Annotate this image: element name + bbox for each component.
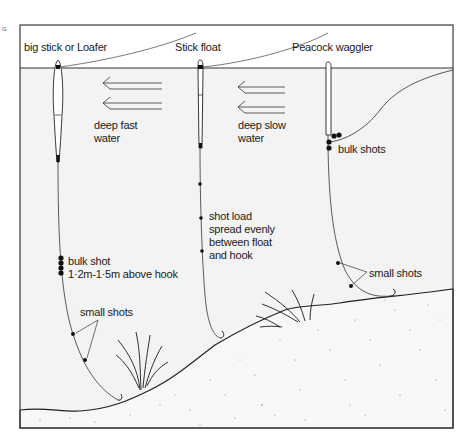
side-mark: G [2,26,7,32]
label-bulk-shots: bulk shots [338,143,386,156]
label-small-shots-left: small shots [80,306,133,319]
stick-float [198,60,203,148]
label-deep-slow-water: deep slow water [238,119,286,145]
label-loafer: big stick or Loafer [24,41,107,54]
label-stick-float: Stick float [175,41,221,54]
label-peacock-waggler: Peacock waggler [292,41,373,54]
label-deep-fast-water: deep fast water [94,119,137,145]
float-fishing-diagram: G big stick or Loafer Stick float Peacoc… [0,0,469,446]
label-small-shots-right: small shots [369,267,422,280]
label-shot-load: shot load spread evenly between float an… [209,210,275,262]
label-bulk-shot: bulk shot 1·2m-1·5m above hook [68,255,178,281]
waggler-float [326,62,331,135]
